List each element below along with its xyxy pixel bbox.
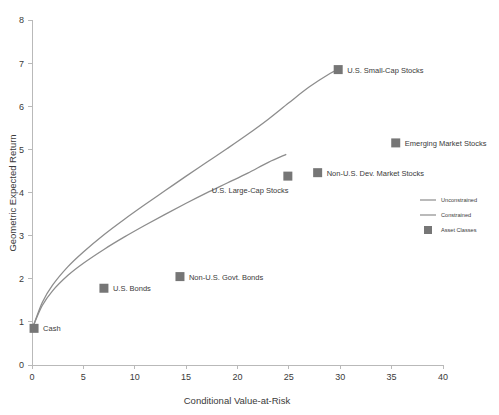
legend-label: Constrained [441, 212, 471, 218]
asset-marker [30, 324, 39, 333]
x-tick-label: 0 [29, 372, 34, 382]
asset-marker [334, 65, 343, 74]
legend-square-swatch [424, 226, 432, 234]
y-tick-label: 4 [19, 188, 24, 198]
legend-label: Asset Classes [441, 227, 477, 233]
asset-label: U.S. Small-Cap Stocks [347, 66, 424, 75]
asset-marker [99, 284, 108, 293]
y-tick-label: 0 [19, 360, 24, 370]
y-tick-label: 8 [19, 15, 24, 25]
asset-label: Non-U.S. Govt. Bonds [189, 273, 263, 282]
x-tick-label: 30 [335, 372, 345, 382]
asset-label: U.S. Bonds [113, 284, 151, 293]
x-tick-label: 40 [438, 372, 448, 382]
asset-marker [175, 272, 184, 281]
y-tick-label: 3 [19, 231, 24, 241]
asset-marker [283, 172, 292, 181]
y-tick-label: 5 [19, 145, 24, 155]
y-tick-label: 2 [19, 274, 24, 284]
asset-label: Emerging Market Stocks [405, 139, 487, 148]
x-tick-label: 10 [130, 372, 140, 382]
asset-class-points: CashU.S. BondsNon-U.S. Govt. BondsU.S. L… [30, 65, 487, 333]
chart-svg: 0510152025303540 012345678 CashU.S. Bond… [0, 0, 499, 415]
y-tick-label: 7 [19, 59, 24, 69]
x-tick-label: 15 [181, 372, 191, 382]
legend-label: Unconstrained [441, 197, 477, 203]
y-axis-title: Geometric Expected Return [7, 134, 18, 251]
x-axis-ticks: 0510152025303540 [29, 365, 448, 382]
chart-legend: UnconstrainedConstrainedAsset Classes [420, 197, 477, 234]
asset-label: U.S. Large-Cap Stocks [212, 186, 289, 195]
x-axis-title: Conditional Value-at-Risk [184, 395, 291, 406]
x-tick-label: 20 [232, 372, 242, 382]
frontier-curves [34, 70, 338, 324]
frontier-line-constrained [34, 155, 286, 324]
x-tick-label: 5 [81, 372, 86, 382]
asset-marker [391, 138, 400, 147]
asset-label: Non-U.S. Dev. Market Stocks [327, 169, 425, 178]
y-axis-ticks: 012345678 [19, 15, 32, 370]
asset-marker [313, 168, 322, 177]
chart-container: 0510152025303540 012345678 CashU.S. Bond… [0, 0, 499, 415]
y-tick-label: 6 [19, 102, 24, 112]
asset-label: Cash [43, 324, 61, 333]
frontier-line-unconstrained [34, 70, 338, 324]
x-tick-label: 25 [284, 372, 294, 382]
x-tick-label: 35 [387, 372, 397, 382]
y-tick-label: 1 [19, 317, 24, 327]
